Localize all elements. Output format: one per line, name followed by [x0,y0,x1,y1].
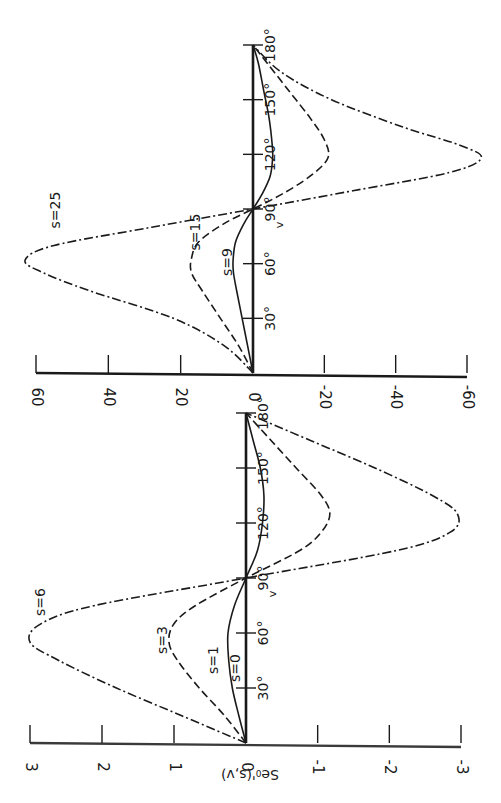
y-axis-label: Se₀'(s,v) [221,767,279,783]
value-axis [36,373,467,377]
value-tick-label: -3 [453,760,471,775]
angle-tick-label: 30° [262,306,278,331]
value-tick-label: -2 [381,760,399,775]
angle-tick-label: 120° [262,137,278,171]
series-label: s=9 [219,248,235,276]
angle-tick-label: 60° [262,251,278,276]
series-label: s=6 [32,588,48,616]
rotated-chart-figure: 6040200-20-40-6030°60°90°120°150°180°vs=… [0,0,501,803]
value-tick-label: 40 [100,387,118,406]
value-tick-label: 2 [94,762,112,772]
series-label: s=1 [205,646,221,674]
value-tick-label: -20 [316,385,334,410]
series-curve-s-6 [29,413,459,743]
angle-tick-label: 30° [255,676,271,701]
angle-tick-label: 150° [262,83,278,117]
value-tick-label: -1 [309,760,327,775]
angle-tick-label: 60° [255,621,271,646]
value-tick-label: 1 [166,762,184,772]
angle-axis-label: v [273,221,286,228]
series-label: s=0 [227,654,243,682]
value-tick-label: 3 [22,762,40,772]
upper-panel: 6040200-20-40-6030°60°90°120°150°180°vs=… [25,28,482,409]
value-tick-label: -40 [387,385,405,410]
value-tick-label: -60 [459,385,477,410]
series-label: s=25 [47,192,63,229]
angle-axis-label: v [266,590,279,597]
lower-panel: 3210-1-2-330°60°90°120°150°180°vs=6s=3s=… [22,396,471,774]
value-tick-label: 60 [28,387,46,406]
value-tick-label: 20 [172,387,190,406]
series-label: s=15 [187,214,203,251]
series-label: s=3 [154,626,170,654]
chart-canvas: 6040200-20-40-6030°60°90°120°150°180°vs=… [0,0,501,803]
